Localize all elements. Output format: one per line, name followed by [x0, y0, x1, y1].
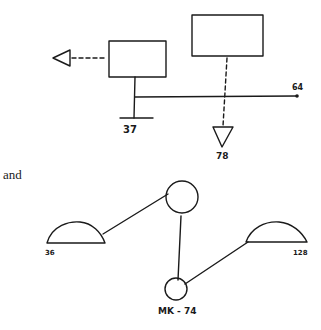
left-box	[109, 41, 166, 77]
label-bottom-circle: MK - 74	[158, 306, 196, 316]
label-down-triangle: 78	[216, 151, 229, 161]
left-dome	[47, 222, 105, 243]
label-ground: 37	[123, 124, 137, 135]
right-box	[192, 15, 263, 56]
label-left-dome: 36	[45, 249, 55, 257]
dashed-connector-down	[223, 58, 227, 126]
bottom-diagram: 36 128 MK - 74	[45, 181, 308, 316]
right-dome	[246, 222, 307, 242]
down-triangle-icon	[213, 127, 233, 147]
horizontal-line	[135, 96, 297, 97]
label-line-end: 64	[292, 83, 304, 92]
top-diagram: 37 64 78	[53, 15, 304, 161]
connector-text: and	[3, 167, 22, 182]
diagram-canvas: 37 64 78 and 36 128 MK - 74	[0, 0, 321, 330]
top-circle	[166, 181, 198, 213]
edge-top-circle-bottom-circle	[178, 216, 181, 280]
edge-bottom-circle-right-dome	[185, 242, 248, 284]
edge-left-dome-top-circle	[103, 194, 168, 234]
left-triangle-icon	[53, 50, 70, 66]
label-right-dome: 128	[293, 249, 308, 257]
bottom-circle	[165, 278, 187, 300]
end-dot	[295, 94, 299, 98]
